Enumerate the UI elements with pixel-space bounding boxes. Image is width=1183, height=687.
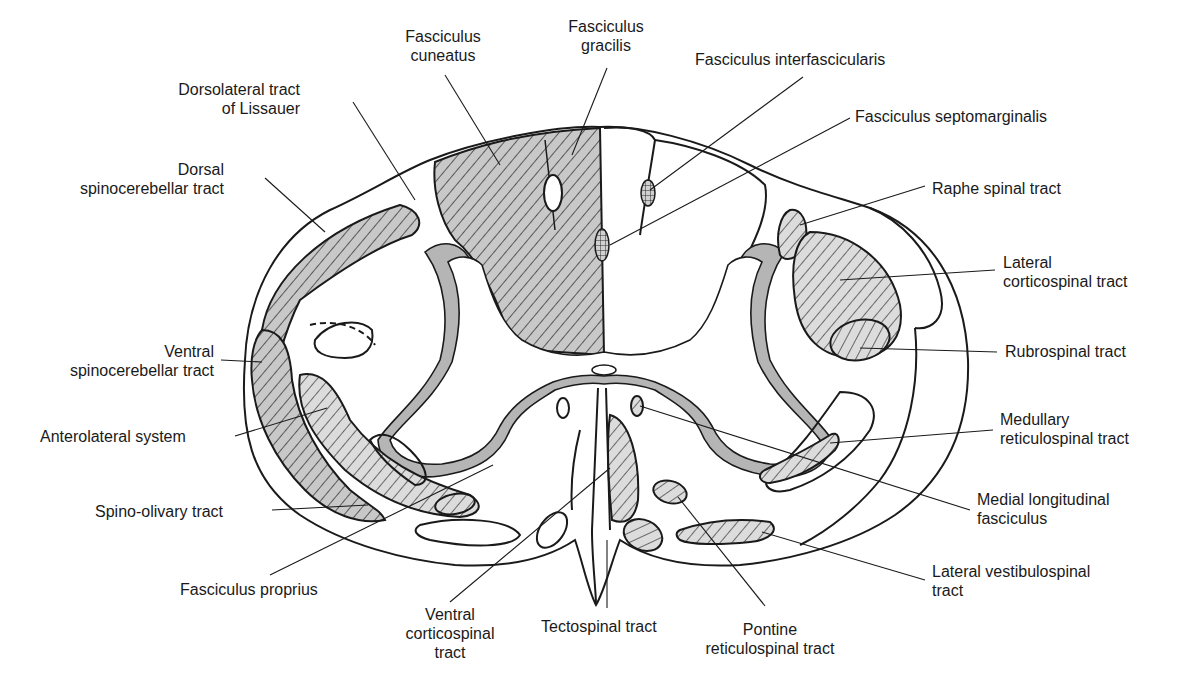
label-fasciculus-septomarginalis: Fasciculus septomarginalis bbox=[855, 107, 1047, 126]
label-rubrospinal: Rubrospinal tract bbox=[1005, 342, 1126, 361]
label-lateral-vestibulospinal: Lateral vestibulospinal tract bbox=[932, 562, 1090, 600]
label-fasciculus-proprius: Fasciculus proprius bbox=[180, 580, 318, 599]
label-spino-olivary: Spino-olivary tract bbox=[95, 502, 223, 521]
label-ventral-corticospinal: Ventral corticospinal tract bbox=[395, 605, 505, 662]
label-fasciculus-cuneatus: Fasciculus cuneatus bbox=[387, 27, 499, 65]
label-dorsolateral-tract: Dorsolateral tract of Lissauer bbox=[150, 80, 300, 118]
label-tectospinal: Tectospinal tract bbox=[541, 617, 657, 636]
gracilis-white-spot bbox=[544, 175, 562, 211]
dorsal-spinocerebellar-shape bbox=[262, 205, 419, 360]
fasciculus-septomarginalis-shape bbox=[595, 229, 609, 261]
label-lateral-corticospinal: Lateral corticospinal tract bbox=[1003, 253, 1128, 291]
central-canal bbox=[592, 365, 616, 375]
label-raphe-spinal: Raphe spinal tract bbox=[932, 179, 1061, 198]
label-medial-longitudinal: Medial longitudinal fasciculus bbox=[977, 490, 1110, 528]
label-medullary-reticulospinal: Medullary reticulospinal tract bbox=[1000, 410, 1129, 448]
label-fasciculus-gracilis: Fasciculus gracilis bbox=[550, 17, 662, 55]
pontine-reticulospinal-shape bbox=[651, 477, 690, 507]
label-pontine-reticulospinal: Pontine reticulospinal tract bbox=[690, 620, 850, 658]
lateral-vestibulospinal-shape bbox=[677, 520, 774, 544]
label-ventral-spinocerebellar: Ventral spinocerebellar tract bbox=[20, 342, 214, 380]
label-dorsal-spinocerebellar: Dorsal spinocerebellar tract bbox=[40, 160, 224, 198]
label-anterolateral-system: Anterolateral system bbox=[40, 427, 186, 446]
ventral-corticospinal-shape bbox=[608, 415, 638, 522]
fasciculus-interfascicularis-shape bbox=[641, 180, 655, 206]
label-fasciculus-interfascicularis: Fasciculus interfascicularis bbox=[695, 50, 885, 69]
